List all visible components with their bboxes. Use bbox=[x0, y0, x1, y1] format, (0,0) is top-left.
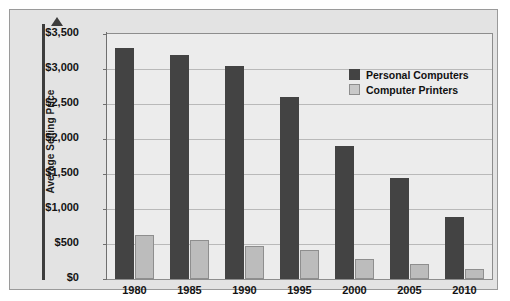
y-axis-tick bbox=[103, 244, 107, 245]
bar-computer-printers-1985 bbox=[190, 240, 209, 279]
y-axis-tick-label: $3,500 bbox=[9, 26, 79, 38]
y-axis-tick bbox=[103, 34, 107, 35]
y-axis-tick-label: $0 bbox=[9, 271, 79, 283]
legend-swatch-icon bbox=[349, 84, 360, 95]
y-axis-tick-label: $2,000 bbox=[9, 131, 79, 143]
bar-personal-computers-2000 bbox=[335, 146, 354, 279]
legend-label: Computer Printers bbox=[366, 84, 458, 96]
chart-panel: Average Selling Price $0$500$1,000$1,500… bbox=[9, 9, 498, 290]
y-axis-tick bbox=[103, 279, 107, 280]
y-axis-tick-label: $1,500 bbox=[9, 166, 79, 178]
y-axis-tick bbox=[103, 209, 107, 210]
bar-personal-computers-1990 bbox=[225, 66, 244, 280]
x-axis-tick-label: 2010 bbox=[435, 284, 495, 296]
bar-personal-computers-1995 bbox=[280, 97, 299, 279]
y-axis-tick-label: $1,000 bbox=[9, 201, 79, 213]
up-arrow-icon bbox=[51, 17, 63, 26]
x-axis-tick-label: 1995 bbox=[270, 284, 330, 296]
gridline bbox=[107, 104, 492, 105]
chart-legend: Personal ComputersComputer Printers bbox=[349, 67, 469, 97]
gridline bbox=[107, 244, 492, 245]
legend-swatch-icon bbox=[349, 69, 360, 80]
bar-computer-printers-2005 bbox=[410, 264, 429, 279]
x-axis-tick-label: 1990 bbox=[215, 284, 275, 296]
legend-item: Computer Printers bbox=[349, 82, 469, 97]
bar-personal-computers-2010 bbox=[445, 217, 464, 279]
gridline bbox=[107, 139, 492, 140]
y-axis-tick-label: $500 bbox=[9, 236, 79, 248]
bar-personal-computers-1985 bbox=[170, 55, 189, 279]
y-axis-tick bbox=[103, 174, 107, 175]
y-axis-tick-label: $2,500 bbox=[9, 96, 79, 108]
y-axis-tick-label: $3,000 bbox=[9, 61, 79, 73]
y-axis-tick bbox=[103, 69, 107, 70]
y-axis-tick bbox=[103, 139, 107, 140]
y-axis-tick bbox=[103, 104, 107, 105]
x-axis-tick-label: 1985 bbox=[160, 284, 220, 296]
bar-personal-computers-1980 bbox=[115, 48, 134, 279]
x-axis-tick-label: 2005 bbox=[380, 284, 440, 296]
bar-computer-printers-1995 bbox=[300, 250, 319, 279]
legend-label: Personal Computers bbox=[366, 69, 469, 81]
bar-computer-printers-2010 bbox=[465, 269, 484, 279]
bar-personal-computers-2005 bbox=[390, 178, 409, 280]
gridline bbox=[107, 209, 492, 210]
legend-item: Personal Computers bbox=[349, 67, 469, 82]
x-axis-tick-label: 1980 bbox=[105, 284, 165, 296]
chart-figure: Average Selling Price $0$500$1,000$1,500… bbox=[0, 0, 510, 301]
bar-computer-printers-1980 bbox=[135, 235, 154, 279]
gridline bbox=[107, 174, 492, 175]
bar-computer-printers-2000 bbox=[355, 259, 374, 279]
bar-computer-printers-1990 bbox=[245, 246, 264, 279]
x-axis-tick-label: 2000 bbox=[325, 284, 385, 296]
